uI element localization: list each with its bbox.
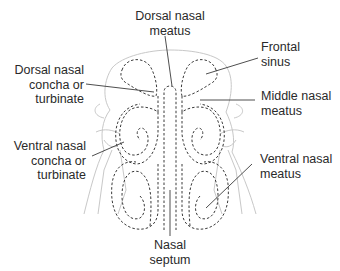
- label-line: turbinate: [8, 92, 84, 107]
- label-line: Dorsal nasal: [8, 63, 84, 78]
- label-line: Ventral nasal: [260, 152, 332, 167]
- leader-dorsal-concha: [86, 84, 154, 92]
- label-line: Frontal: [261, 40, 300, 55]
- label-line: Dorsal nasal: [128, 9, 212, 24]
- right-ventral-concha: [182, 162, 228, 230]
- label-line: Ventral nasal: [6, 139, 86, 154]
- label-frontal-sinus: Frontal sinus: [261, 40, 300, 69]
- nasal-cavity-diagram: Dorsal nasal meatus Frontal sinus Dorsal…: [0, 0, 340, 271]
- label-dorsal-nasal-meatus: Dorsal nasal meatus: [128, 9, 212, 38]
- label-line: meatus: [261, 104, 331, 119]
- leader-ventral-nasal-meatus: [206, 164, 252, 208]
- label-ventral-nasal-concha: Ventral nasal concha or turbinate: [6, 139, 86, 183]
- leader-dorsal-nasal-meatus: [165, 36, 172, 86]
- label-ventral-nasal-meatus: Ventral nasal meatus: [260, 152, 332, 181]
- leader-lines: [86, 36, 258, 236]
- label-line: turbinate: [6, 168, 86, 183]
- left-ventral-concha: [112, 162, 158, 230]
- label-line: Nasal: [140, 238, 200, 253]
- right-frontal-sinus: [181, 60, 217, 97]
- label-line: concha or: [6, 154, 86, 169]
- right-dorsal-concha: [182, 96, 220, 155]
- label-line: meatus: [128, 24, 212, 39]
- left-frontal-sinus: [121, 60, 157, 97]
- label-line: Middle nasal: [261, 89, 331, 104]
- label-line: sinus: [261, 55, 300, 70]
- label-nasal-septum: Nasal septum: [140, 238, 200, 267]
- label-line: meatus: [260, 167, 332, 182]
- left-dorsal-concha: [120, 96, 158, 155]
- label-dorsal-nasal-concha: Dorsal nasal concha or turbinate: [8, 63, 84, 107]
- label-line: septum: [140, 253, 200, 268]
- label-middle-nasal-meatus: Middle nasal meatus: [261, 89, 331, 118]
- label-line: concha or: [8, 78, 84, 93]
